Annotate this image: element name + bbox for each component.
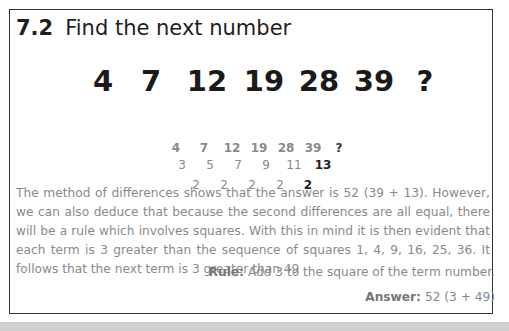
bottom-band-divider xyxy=(0,322,509,331)
first-difference: 7 xyxy=(234,158,242,172)
answer-line: Answer: 52 (3 + 49) xyxy=(365,290,495,304)
big-term: 7 xyxy=(141,64,161,98)
big-term: 4 xyxy=(93,64,113,98)
big-term-unknown: ? xyxy=(417,64,434,98)
sequence-term: 39 xyxy=(305,141,322,155)
rule-line: Rule: Add 3 to the square of the term nu… xyxy=(209,265,495,279)
sequence-unknown: ? xyxy=(336,141,343,155)
puzzle-title: Find the next number xyxy=(65,16,291,40)
big-term: 39 xyxy=(354,64,394,98)
first-difference: 3 xyxy=(178,158,186,172)
sequence-term: 7 xyxy=(200,141,208,155)
rule-text: Add 3 to the square of the term number. xyxy=(248,265,495,279)
first-difference: 11 xyxy=(286,158,301,172)
first-difference: 5 xyxy=(206,158,214,172)
big-term: 12 xyxy=(187,64,227,98)
first-difference-next: 13 xyxy=(315,158,332,172)
puzzle-number: 7.2 xyxy=(16,16,53,40)
first-difference: 9 xyxy=(262,158,270,172)
big-term: 19 xyxy=(244,64,284,98)
sequence-term: 19 xyxy=(251,141,268,155)
sequence-term: 4 xyxy=(172,141,180,155)
puzzle-heading: 7.2Find the next number xyxy=(16,16,291,40)
answer-label: Answer: xyxy=(365,290,421,304)
answer-text: 52 (3 + 49) xyxy=(425,290,495,304)
big-term: 28 xyxy=(299,64,339,98)
sequence-term: 28 xyxy=(278,141,295,155)
rule-label: Rule: xyxy=(209,265,244,279)
sequence-term: 12 xyxy=(224,141,241,155)
